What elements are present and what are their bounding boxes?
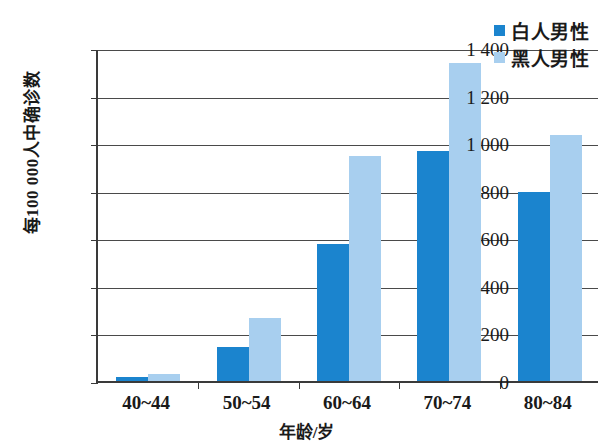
x-tick-mark <box>198 381 199 389</box>
plot-area <box>96 50 598 383</box>
legend-label-series-1: 黑人男性 <box>511 44 589 71</box>
x-tick-label-50-54: 50~54 <box>223 392 271 414</box>
bar-80-84-series-0 <box>518 192 550 381</box>
bar-70-74-series-1 <box>449 63 481 381</box>
y-tick-mark <box>91 383 98 384</box>
y-tick-mark <box>91 50 98 51</box>
y-tick-label: 400 <box>481 277 510 299</box>
bar-40-44-series-0 <box>116 377 148 381</box>
bar-50-54-series-0 <box>217 347 249 381</box>
x-tick-mark <box>299 381 300 389</box>
legend-label-series-0: 白人男性 <box>511 17 589 44</box>
bar-60-64-series-0 <box>317 244 349 381</box>
y-tick-label: 1 000 <box>466 134 509 156</box>
legend-item-series-1[interactable]: 黑人男性 <box>494 44 589 71</box>
y-tick-label: 800 <box>481 182 510 204</box>
x-axis-title: 年龄/岁 <box>0 418 613 442</box>
legend-item-series-0[interactable]: 白人男性 <box>494 17 589 44</box>
x-tick-mark <box>399 381 400 389</box>
bar-50-54-series-1 <box>249 318 281 381</box>
x-tick-label-80-84: 80~84 <box>524 392 572 414</box>
gridline <box>98 98 598 99</box>
gridline <box>98 145 598 146</box>
legend: 白人男性 黑人男性 <box>494 17 589 71</box>
bar-60-64-series-1 <box>349 156 381 381</box>
y-tick-mark <box>91 288 98 289</box>
y-tick-label: 200 <box>481 324 510 346</box>
legend-swatch-icon-series-1 <box>494 52 505 63</box>
y-tick-mark <box>91 193 98 194</box>
y-axis-title: 每100 000人中确诊数 <box>18 0 43 323</box>
y-tick-mark <box>91 240 98 241</box>
x-tick-label-60-64: 60~64 <box>323 392 371 414</box>
y-tick-label: 0 <box>500 372 510 394</box>
x-tick-label-70-74: 70~74 <box>423 392 471 414</box>
bar-chart: 每100 000人中确诊数 02004006008001 0001 2001 4… <box>0 0 613 442</box>
bar-70-74-series-0 <box>417 151 449 381</box>
x-tick-label-40-44: 40~44 <box>122 392 170 414</box>
y-tick-label: 1 200 <box>466 87 509 109</box>
y-tick-mark <box>91 145 98 146</box>
y-tick-mark <box>91 335 98 336</box>
bar-80-84-series-1 <box>550 135 582 381</box>
bar-40-44-series-1 <box>148 374 180 381</box>
legend-swatch-icon-series-0 <box>494 25 505 36</box>
y-tick-label: 600 <box>481 229 510 251</box>
y-tick-mark <box>91 98 98 99</box>
